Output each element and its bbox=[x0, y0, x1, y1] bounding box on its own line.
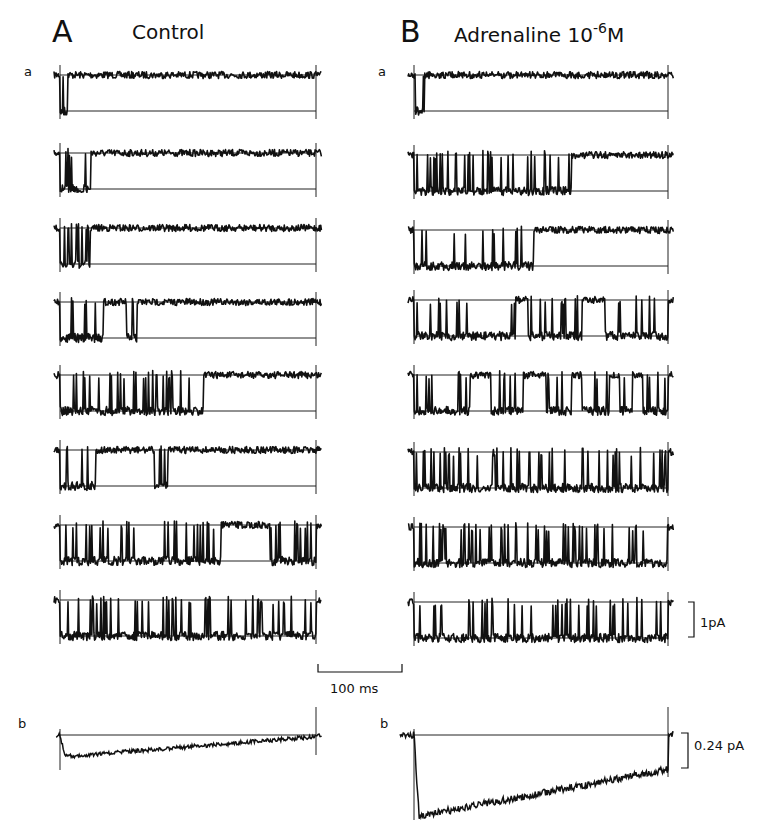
sweep-trace bbox=[54, 521, 321, 566]
sweep-trace bbox=[408, 72, 673, 116]
sweep-trace bbox=[54, 446, 321, 490]
sweep-trace bbox=[54, 596, 321, 641]
sweep-trace bbox=[408, 448, 673, 493]
recording-traces bbox=[0, 0, 771, 835]
sweep-trace bbox=[408, 151, 673, 196]
ensemble-average-trace bbox=[400, 732, 674, 819]
ensemble-average-trace bbox=[56, 733, 322, 757]
sweep-trace bbox=[408, 226, 673, 270]
sweep-trace bbox=[408, 371, 673, 416]
sweep-trace bbox=[408, 296, 673, 341]
time-scale-bar bbox=[318, 664, 402, 672]
sweep-trace bbox=[54, 224, 321, 269]
current-scale-bar-1pa bbox=[688, 602, 694, 637]
sweep-trace bbox=[408, 598, 673, 643]
sweep-trace bbox=[408, 523, 673, 568]
sweep-trace bbox=[54, 298, 321, 343]
current-scale-bar-024pa bbox=[681, 733, 688, 768]
sweep-trace bbox=[54, 149, 321, 193]
sweep-trace bbox=[54, 72, 321, 115]
sweep-trace bbox=[54, 371, 321, 416]
